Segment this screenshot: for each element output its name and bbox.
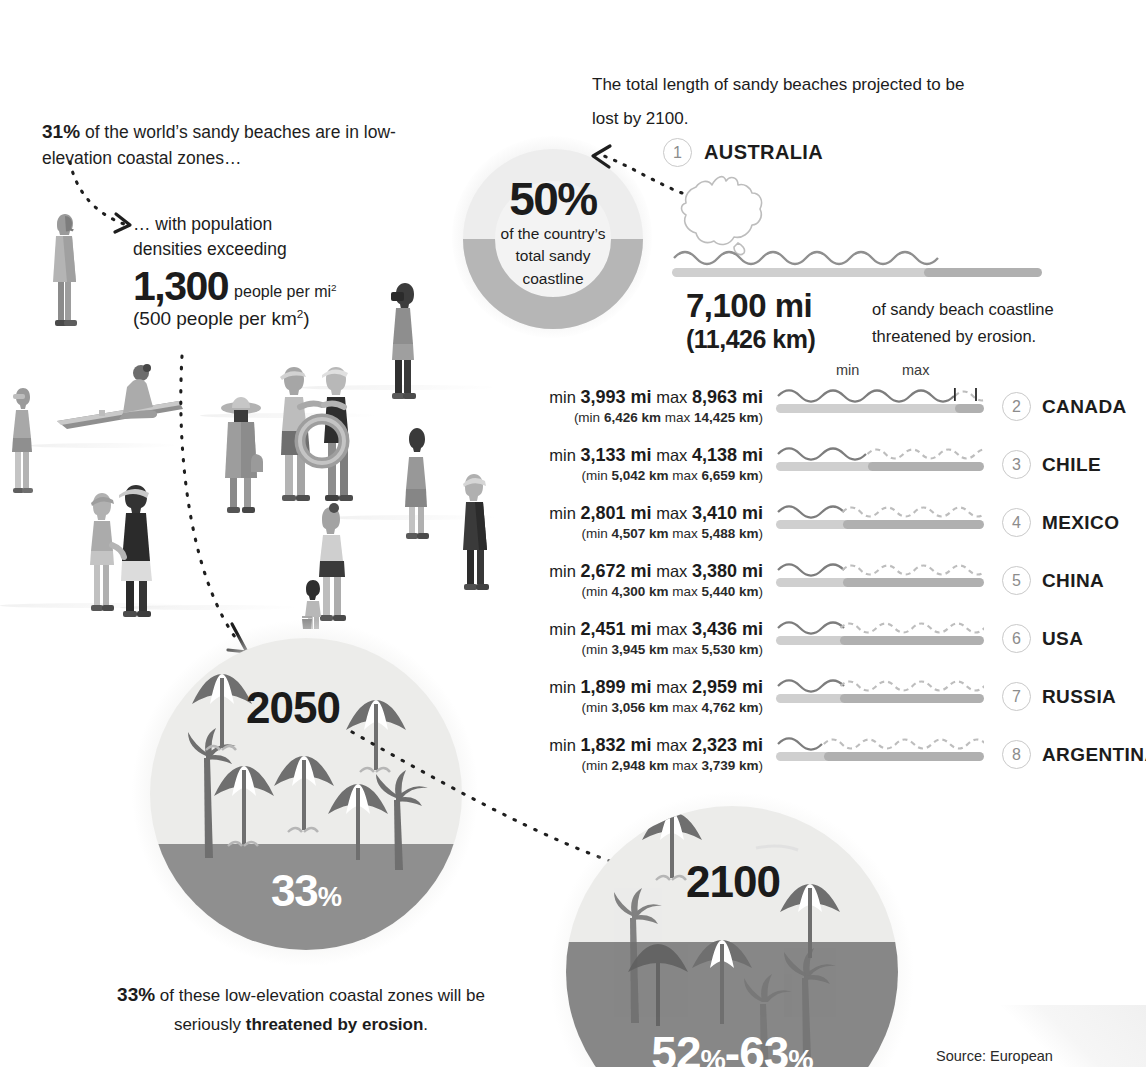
- bar-dark-segment: [955, 404, 984, 413]
- australia-coastline-bar: [672, 248, 1042, 282]
- wave-line-icon: [672, 248, 1042, 266]
- bar-light-segment: [776, 462, 874, 471]
- country-name-argentina: ARGENTINA: [1042, 744, 1146, 766]
- person-woman-dark-dress: [455, 470, 493, 599]
- australia-miles: 7,100 mi: [686, 288, 815, 325]
- country-bar-graphic: [776, 384, 984, 418]
- country-label[interactable]: 3CHILE: [1002, 450, 1101, 479]
- max-label: max: [656, 388, 687, 406]
- australia-rank-row: 1 AUSTRALIA: [663, 138, 823, 167]
- country-name-usa: USA: [1042, 628, 1083, 650]
- max-miles: 8,963 mi: [692, 387, 763, 407]
- beach-umbrella-icon: [214, 766, 274, 846]
- bar-dark-segment: [840, 636, 984, 645]
- rank-circle-1: 1: [663, 138, 692, 167]
- max-km: 4,762 km: [701, 700, 758, 715]
- percent-range-dash: -: [725, 1027, 739, 1067]
- country-values: min 2,672 mi max 3,380 mi(min 4,300 km m…: [549, 560, 763, 601]
- country-name-russia: RUSSIA: [1042, 686, 1116, 708]
- max-km: 6,659 km: [701, 468, 758, 483]
- rank-number: 7: [1012, 688, 1021, 706]
- percent-value-low: 52: [651, 1027, 700, 1067]
- country-name-mexico: MEXICO: [1042, 512, 1119, 534]
- max-miles: 3,410 mi: [692, 503, 763, 523]
- min-label: min: [549, 620, 576, 638]
- country-values: min 1,899 mi max 2,959 mi(min 3,056 km m…: [549, 676, 763, 717]
- country-name-china: CHINA: [1042, 570, 1104, 592]
- donut-sub-line3: coastline: [462, 269, 644, 289]
- beach-2100-percent: 52%-63%: [566, 1026, 898, 1067]
- australia-distance-block: 7,100 mi (11,426 km): [686, 288, 815, 354]
- min-miles: 3,993 mi: [581, 387, 652, 407]
- max-miles: 3,380 mi: [692, 561, 763, 581]
- country-miles-line: min 3,993 mi max 8,963 mi: [549, 386, 763, 409]
- bar-light-segment: [672, 268, 931, 277]
- rank-number: 1: [673, 144, 682, 162]
- wave-line-icon: [776, 500, 984, 522]
- country-km-line: (min 6,426 km max 14,425 km): [549, 409, 763, 427]
- percent-value: 33: [271, 866, 318, 915]
- bar-dark-segment: [924, 268, 1042, 277]
- bar-dark-segment: [843, 578, 984, 587]
- min-label: min: [549, 504, 576, 522]
- bar-light-segment: [776, 752, 830, 761]
- legend-max-label: max: [902, 362, 929, 378]
- min-km: 3,945 km: [611, 642, 668, 657]
- country-miles-line: min 2,801 mi max 3,410 mi: [549, 502, 763, 525]
- population-number: 1,300: [133, 267, 228, 306]
- caption-bold-threatened: threatened: [246, 1015, 333, 1034]
- country-km-line: (min 3,056 km max 4,762 km): [549, 699, 763, 717]
- country-row[interactable]: min 3,133 mi max 4,138 mi(min 5,042 km m…: [540, 444, 1146, 502]
- bar-dark-segment: [868, 462, 984, 471]
- min-label: min: [549, 388, 576, 406]
- country-km-line: (min 4,507 km max 5,488 km): [549, 525, 763, 543]
- beach-umbrella-icon: [780, 884, 840, 958]
- beach-umbrella-icon: [192, 674, 252, 750]
- wave-line-icon: [776, 384, 984, 406]
- australia-side-caption: of sandy beach coastline threatened by e…: [872, 296, 1102, 349]
- caption-2050: 33% of these low-elevation coastal zones…: [86, 980, 516, 1038]
- min-label: min: [549, 678, 576, 696]
- person-woman-on-towel: [55, 363, 185, 439]
- country-label[interactable]: 2CANADA: [1002, 392, 1127, 421]
- beach-2050-year: 2050: [246, 683, 340, 733]
- max-label: max: [656, 620, 687, 638]
- beach-2100-year: 2100: [686, 857, 780, 907]
- person-pair-with-float-ring: [278, 363, 368, 512]
- country-name-chile: CHILE: [1042, 454, 1101, 476]
- percent-sign-low: %: [700, 1043, 724, 1067]
- min-km: 6,426 km: [604, 410, 661, 425]
- min-miles: 1,899 mi: [581, 677, 652, 697]
- country-row[interactable]: min 3,993 mi max 8,963 mi(min 6,426 km m…: [540, 386, 1146, 444]
- country-label[interactable]: 7RUSSIA: [1002, 682, 1116, 711]
- percent-value-high: 63: [739, 1027, 788, 1067]
- country-name-australia: AUSTRALIA: [704, 141, 823, 164]
- donut-percent: 50%: [462, 176, 644, 222]
- rank-number: 3: [1012, 456, 1021, 474]
- country-label[interactable]: 8ARGENTINA: [1002, 740, 1146, 769]
- rank-circle-8: 8: [1002, 740, 1031, 769]
- person-woman-and-toddler: [300, 503, 362, 637]
- side-caption-line2: threatened by erosion.: [872, 323, 1102, 350]
- donut-sub-line2: total sandy: [462, 246, 644, 266]
- percent-sign: %: [318, 881, 341, 912]
- country-row[interactable]: min 2,801 mi max 3,410 mi(min 4,507 km m…: [540, 502, 1146, 560]
- caption-end: .: [423, 1015, 428, 1034]
- beach-umbrella-icon: [274, 756, 334, 832]
- country-row[interactable]: min 1,899 mi max 2,959 mi(min 3,056 km m…: [540, 676, 1146, 734]
- minmax-legend: min max: [836, 362, 966, 380]
- rank-number: 8: [1012, 746, 1021, 764]
- population-line2: densities exceeding: [133, 237, 433, 262]
- country-row[interactable]: min 2,672 mi max 3,380 mi(min 4,300 km m…: [540, 560, 1146, 618]
- country-label[interactable]: 4MEXICO: [1002, 508, 1119, 537]
- country-label[interactable]: 6USA: [1002, 624, 1083, 653]
- country-km-line: (min 4,300 km max 5,440 km): [549, 583, 763, 601]
- infographic-canvas: 31% of the world’s sandy beaches are in …: [0, 0, 1146, 1067]
- population-number-row: 1,300 people per mi2: [133, 267, 433, 306]
- max-miles: 2,959 mi: [692, 677, 763, 697]
- max-label: max: [656, 678, 687, 696]
- country-row[interactable]: min 2,451 mi max 3,436 mi(min 3,945 km m…: [540, 618, 1146, 676]
- country-label[interactable]: 5CHINA: [1002, 566, 1104, 595]
- country-bar-graphic: [776, 616, 984, 650]
- header-paragraph: The total length of sandy beaches projec…: [592, 68, 992, 136]
